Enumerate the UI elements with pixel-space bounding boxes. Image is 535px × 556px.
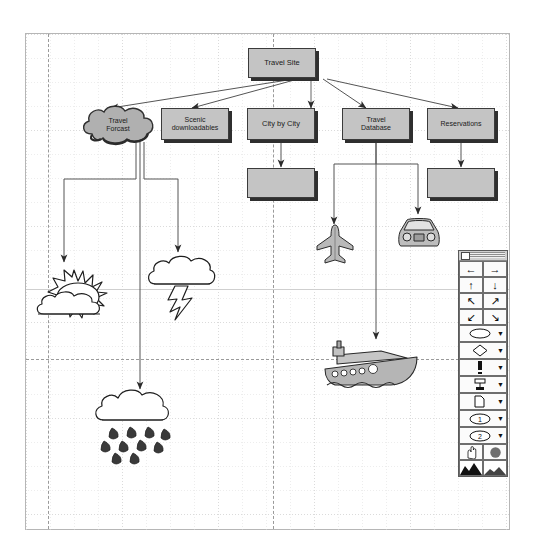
chevron-down-icon[interactable]: ▼	[497, 415, 504, 422]
node-travel-forcast[interactable]: Travel Forcast	[79, 104, 157, 146]
circle-one-icon: 1	[462, 413, 497, 425]
arrow-left-icon: ←	[466, 264, 477, 275]
arrow-down-right-button[interactable]: ↘	[483, 309, 507, 325]
sun-behind-cloud-clipart[interactable]	[34, 264, 110, 326]
filled-circle-icon	[489, 446, 502, 459]
palette-row-arrows-vertical: ↑ ↓	[459, 277, 507, 293]
palette-row-fills	[459, 460, 507, 476]
diamond-shape-dropdown[interactable]: ▼	[459, 342, 507, 359]
arrow-right-icon: →	[490, 264, 501, 275]
svg-text:2: 2	[478, 433, 482, 440]
arrow-up-icon: ↑	[468, 280, 474, 291]
palette-close-icon[interactable]	[461, 252, 470, 260]
mountain-light-icon	[484, 461, 506, 475]
chevron-down-icon[interactable]: ▼	[497, 347, 504, 354]
ellipse-icon	[462, 328, 497, 339]
gradient-fill-button[interactable]	[459, 460, 483, 476]
palette-row-tools	[459, 444, 507, 460]
node-reservations-child[interactable]	[427, 168, 495, 198]
node-city-by-city[interactable]: City by City	[247, 108, 315, 140]
arrow-up-right-icon: ↗	[490, 296, 499, 307]
page-shape-dropdown[interactable]: ▼	[459, 393, 507, 410]
mountain-dark-icon	[460, 461, 482, 475]
car-clipart[interactable]	[396, 216, 442, 250]
hand-pan-tool-button[interactable]	[459, 444, 483, 460]
connector-icon	[462, 378, 497, 391]
arrow-down-right-icon: ↘	[490, 312, 499, 323]
node-travel-database-label: Travel Database	[358, 116, 394, 132]
node-city-child[interactable]	[247, 168, 315, 198]
arrow-up-left-button[interactable]: ↖	[459, 293, 483, 309]
connector-shape-dropdown[interactable]: ▼	[459, 376, 507, 393]
chevron-down-icon[interactable]: ▼	[497, 381, 504, 388]
arrow-down-icon: ↓	[492, 280, 498, 291]
diamond-icon	[462, 344, 497, 357]
node-travel-site-label: Travel Site	[261, 59, 303, 68]
arrow-right-button[interactable]: →	[483, 261, 507, 277]
airplane-clipart[interactable]	[314, 224, 356, 266]
node-travel-site[interactable]: Travel Site	[248, 48, 316, 78]
shapes-toolbar-palette[interactable]: ← → ↑ ↓ ↖ ↗ ↙ ↘ ▼ ▼ ▼	[458, 250, 508, 477]
line-icon	[462, 361, 497, 374]
arrow-down-left-button[interactable]: ↙	[459, 309, 483, 325]
line-shape-dropdown[interactable]: ▼	[459, 359, 507, 376]
chevron-down-icon[interactable]: ▼	[497, 330, 504, 337]
arrow-up-left-icon: ↖	[466, 296, 475, 307]
arrow-left-button[interactable]: ←	[459, 261, 483, 277]
chevron-down-icon[interactable]: ▼	[497, 398, 504, 405]
rain-cloud-clipart[interactable]	[86, 382, 182, 468]
ellipse-shape-dropdown[interactable]: ▼	[459, 325, 507, 342]
arrow-down-button[interactable]: ↓	[483, 277, 507, 293]
circle-two-icon: 2	[462, 430, 497, 442]
ship-clipart[interactable]	[321, 339, 421, 395]
palette-drag-grip[interactable]	[470, 252, 505, 258]
node-scenic-downloadables-label: Scenic downloadables	[169, 116, 222, 132]
svg-text:1: 1	[478, 416, 482, 423]
chevron-down-icon[interactable]: ▼	[497, 432, 504, 439]
arrow-down-left-icon: ↙	[466, 312, 475, 323]
node-reservations[interactable]: Reservations	[427, 108, 495, 140]
node-scenic-downloadables[interactable]: Scenic downloadables	[161, 108, 229, 140]
numbered-one-dropdown[interactable]: 1 ▼	[459, 410, 507, 427]
fill-color-button[interactable]	[483, 444, 507, 460]
node-travel-forcast-label: Travel Forcast	[79, 117, 157, 134]
palette-row-arrows-diagonal-down: ↙ ↘	[459, 309, 507, 325]
numbered-two-dropdown[interactable]: 2 ▼	[459, 427, 507, 444]
palette-title-bar[interactable]	[459, 251, 507, 261]
hand-icon	[465, 446, 478, 459]
palette-row-arrows-horizontal: ← →	[459, 261, 507, 277]
diagram-canvas[interactable]: Travel Site Travel Forcast Scenic downlo…	[25, 33, 510, 530]
arrow-up-right-button[interactable]: ↗	[483, 293, 507, 309]
node-city-by-city-label: City by City	[259, 120, 303, 129]
page-icon	[462, 395, 497, 408]
chevron-down-icon[interactable]: ▼	[497, 364, 504, 371]
node-travel-database[interactable]: Travel Database	[342, 108, 410, 140]
palette-row-arrows-diagonal-up: ↖ ↗	[459, 293, 507, 309]
arrow-up-button[interactable]: ↑	[459, 277, 483, 293]
cloud-lightning-clipart[interactable]	[144, 250, 218, 328]
pattern-fill-button[interactable]	[483, 460, 507, 476]
node-reservations-label: Reservations	[438, 120, 485, 128]
